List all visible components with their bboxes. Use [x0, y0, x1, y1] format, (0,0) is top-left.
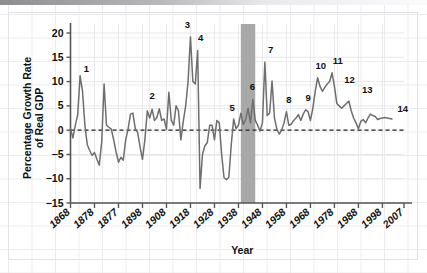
peak-annotation-7: 7 [268, 44, 273, 55]
x-axis-tick-label: 1988 [334, 205, 360, 230]
x-axis-tick-label: 1908 [142, 205, 168, 230]
x-axis-tick-label: 1868 [46, 205, 72, 230]
peak-annotation-13: 13 [362, 84, 373, 95]
peak-annotation-5: 5 [229, 102, 235, 113]
shaded-band-wwii [241, 24, 255, 203]
peak-annotation-10: 10 [316, 60, 327, 71]
y-axis-tick-label: −10 [46, 172, 64, 184]
peak-annotation-3: 3 [185, 19, 190, 30]
y-axis-tick-label: 5 [58, 99, 64, 111]
gdp-growth-line-chart: 20151050−5−10−15186818781877189819081918… [0, 0, 427, 273]
chart-area: 20151050−5−10−15186818781877189819081918… [0, 0, 427, 273]
peak-annotation-1: 1 [84, 63, 90, 74]
peak-annotation-2: 2 [149, 90, 154, 101]
y-axis-tick-label: 15 [52, 51, 64, 63]
peak-annotation-9: 9 [305, 92, 310, 103]
y-axis-tick-label: 20 [52, 27, 64, 39]
peak-annotation-6: 6 [250, 81, 255, 92]
x-axis-title: Year [231, 244, 253, 256]
x-axis-tick-label: 1928 [190, 205, 216, 230]
x-axis-tick-label: 2007 [379, 205, 406, 231]
x-axis-tick-label: 1998 [358, 205, 384, 230]
y-axis-title-line1: Percentage Growth Rate [21, 57, 33, 179]
x-axis-tick-label: 1877 [94, 205, 120, 230]
x-axis-tick-label: 1918 [166, 205, 192, 230]
x-axis-tick-label: 1948 [238, 205, 264, 230]
peak-annotation-4: 4 [198, 32, 204, 43]
y-axis-tick-label: 0 [58, 124, 64, 136]
x-axis-tick-label: 1898 [118, 205, 144, 230]
x-axis-tick-label: 1968 [286, 205, 312, 230]
y-axis-tick-label: 10 [52, 75, 64, 87]
y-axis-tick-label: −5 [52, 148, 64, 160]
peak-annotation-12: 12 [344, 74, 355, 85]
peak-annotation-11: 11 [333, 55, 344, 66]
peak-annotation-8: 8 [286, 94, 291, 105]
x-axis-tick-label: 1938 [214, 205, 240, 230]
x-axis-tick-label: 1878 [70, 205, 96, 230]
y-axis-tick-label: −15 [46, 197, 64, 209]
peak-annotation-14: 14 [398, 103, 409, 114]
x-axis-tick-label: 1978 [310, 205, 336, 230]
x-axis-tick-label: 1958 [262, 205, 288, 230]
y-axis-title-line2: of Real GDP [33, 88, 45, 149]
